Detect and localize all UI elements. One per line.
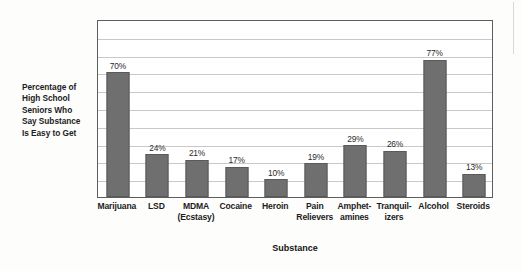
bar-value-label: 21%	[189, 148, 205, 158]
bar-slot: 70%	[98, 21, 138, 197]
bar[interactable]	[225, 167, 248, 197]
scan-artifact-line	[513, 2, 514, 54]
bar-slot: 13%	[454, 21, 494, 197]
bar-slot: 21%	[177, 21, 217, 197]
x-axis-title: Substance	[97, 243, 493, 253]
bars-layer: 70%24%21%17%10%19%29%26%77%13%	[98, 21, 492, 197]
bar-slot: 77%	[415, 21, 455, 197]
bar[interactable]	[185, 160, 208, 197]
bar[interactable]	[106, 72, 129, 197]
bar[interactable]	[344, 145, 367, 197]
bar-chart-figure: Percentage ofHigh SchoolSeniors WhoSay S…	[0, 0, 522, 271]
bar[interactable]	[463, 174, 486, 197]
x-axis-tick-label: Steroids	[449, 201, 497, 212]
y-axis-title-line: Percentage of	[22, 82, 96, 93]
bar-slot: 26%	[375, 21, 415, 197]
plot-area: 70%24%21%17%10%19%29%26%77%13%	[97, 20, 493, 198]
bar-slot: 19%	[296, 21, 336, 197]
bar-slot: 24%	[138, 21, 178, 197]
x-axis-tick-labels: MarijuanaLSDMDMA(Ecstasy)CocaineHeroinPa…	[97, 201, 493, 235]
bar[interactable]	[265, 179, 288, 197]
bar-value-label: 10%	[268, 168, 284, 178]
bar-slot: 17%	[217, 21, 257, 197]
bar-slot: 29%	[336, 21, 376, 197]
bar[interactable]	[423, 60, 446, 197]
bar[interactable]	[383, 151, 406, 197]
y-axis-title-line: High School	[22, 93, 96, 104]
bar-value-label: 29%	[347, 134, 363, 144]
bar-value-label: 13%	[466, 162, 482, 172]
y-axis-title-line: Is Easy to Get	[22, 128, 96, 139]
x-axis-tick-label-line: izers	[370, 212, 418, 223]
bar-value-label: 70%	[110, 61, 126, 71]
x-axis-tick-label-line: (Ecstasy)	[172, 212, 220, 223]
bar-value-label: 19%	[308, 152, 324, 162]
x-axis-tick-label-line: Steroids	[449, 201, 497, 212]
bar-value-label: 24%	[149, 143, 165, 153]
bar-value-label: 17%	[229, 155, 245, 165]
y-axis-title-line: Seniors Who	[22, 105, 96, 116]
y-axis-title-line: Say Substance	[22, 116, 96, 127]
bar-value-label: 77%	[427, 48, 443, 58]
bar-value-label: 26%	[387, 139, 403, 149]
y-axis-title: Percentage ofHigh SchoolSeniors WhoSay S…	[22, 82, 96, 139]
bar[interactable]	[146, 154, 169, 197]
bar-slot: 10%	[256, 21, 296, 197]
bar[interactable]	[304, 163, 327, 197]
